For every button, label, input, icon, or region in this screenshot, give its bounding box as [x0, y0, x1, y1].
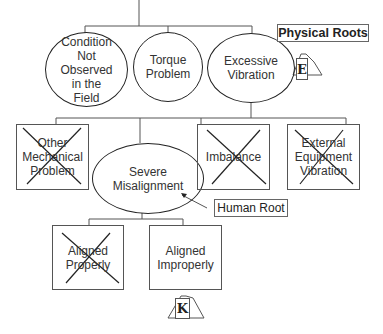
node-severe-misalignment: Severe Misalignment [92, 143, 204, 214]
node-torque-problem: Torque Problem [133, 32, 203, 102]
node-condition-not-observed: Condition Not Observed in the Field [45, 32, 128, 107]
node-aligned-improperly: Aligned Improperly [149, 225, 222, 290]
node-imbalance: Imbalance [197, 124, 270, 190]
physical-roots-label: Physical Roots [277, 24, 369, 42]
node-aligned-properly: Aligned Properly [52, 225, 124, 290]
human-root-label: Human Root [214, 199, 288, 217]
connector-k-icon: K [175, 298, 190, 319]
node-excessive-vibration: Excessive Vibration [207, 33, 295, 103]
node-other-mechanical-problem: Other Mechanical Problem [16, 124, 89, 190]
node-external-equipment-vibration: External Equipment Vibration [287, 124, 360, 190]
connector-e-icon: E [296, 58, 308, 80]
